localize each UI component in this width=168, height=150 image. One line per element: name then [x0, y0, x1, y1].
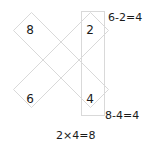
cell-digit-bottom-left: 6	[22, 93, 38, 105]
cell-digit-top-right: 2	[82, 24, 98, 36]
equation-bottom-center: 2×4=8	[56, 130, 95, 142]
equation-top-right: 6-2=4	[108, 12, 142, 24]
lattice-diagram-canvas: 8 2 6 4 6-2=4 8-4=4 2×4=8	[0, 0, 168, 150]
cell-digit-bottom-right: 4	[82, 93, 98, 105]
equation-bottom-right: 8-4=4	[105, 110, 139, 122]
cell-digit-top-left: 8	[22, 24, 38, 36]
